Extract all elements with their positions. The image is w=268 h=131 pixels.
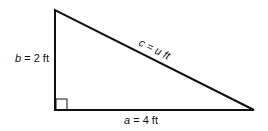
triangle-diagram: b = 2 ft a = 4 ft c = u ft (0, 0, 268, 131)
label-side-c: c = u ft (137, 36, 173, 62)
right-angle-marker (56, 99, 67, 110)
right-triangle (55, 10, 254, 110)
label-side-b: b = 2 ft (15, 52, 49, 64)
label-side-a: a = 4 ft (124, 114, 158, 126)
